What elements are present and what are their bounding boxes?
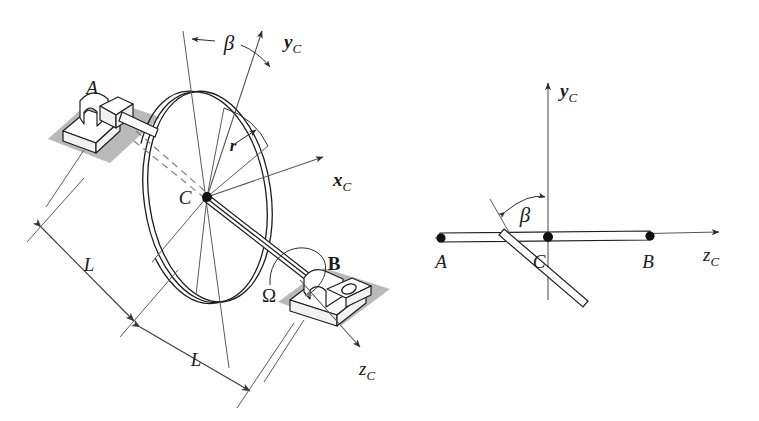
dim-L-lower-extension-b [237, 323, 294, 408]
label-bearing-b: B [328, 253, 341, 274]
bearing-b-leader-line [264, 320, 304, 382]
beta-pointer-left [192, 39, 215, 41]
right-projected-view: A C B β yC zC [433, 80, 719, 307]
dim-L-upper-extension-a [27, 178, 84, 242]
axis-label-x-sub: C [343, 179, 352, 194]
r-point-b-dot [645, 231, 654, 240]
axis-label-z: zC [358, 358, 375, 383]
left-perspective-view: A B C r β Ω L L xC yC zC [27, 31, 390, 408]
bearing-a-leader-line [46, 150, 84, 207]
axis-label-x-main: x [332, 169, 343, 190]
radial-line-to-rim-lower [196, 197, 207, 295]
axis-label-z-sub: C [366, 368, 375, 383]
radius-pointer [236, 130, 256, 143]
shaft-hidden-segment-upper [136, 131, 206, 192]
shaft-rod-centerline [205, 197, 312, 280]
r-point-c-dot [543, 232, 553, 242]
r-label-center-c: C [533, 251, 546, 272]
bearing-b [290, 270, 371, 326]
label-length-l-upper: L [83, 254, 95, 275]
shaft-hidden-segment-lower [134, 141, 206, 199]
label-center-c: C [179, 187, 192, 208]
dim-L-upper-extension-b [120, 270, 178, 337]
r-point-a-dot [436, 233, 445, 242]
figure-root: A B C r β Ω L L xC yC zC [0, 0, 759, 421]
label-omega: Ω [262, 285, 276, 306]
r-label-beta: β [519, 203, 531, 227]
axis-label-y-main: y [282, 31, 293, 52]
axis-label-y-sub: C [292, 41, 301, 56]
r-axis-label-z-sub: C [710, 254, 719, 269]
label-bearing-a: A [84, 77, 98, 98]
r-axis-label-y: yC [558, 80, 577, 105]
axis-yC-arrow [207, 31, 262, 197]
axis-label-y: yC [282, 31, 301, 56]
center-point-C [202, 192, 212, 202]
label-length-l-lower: L [190, 349, 202, 370]
r-label-point-b: B [642, 251, 654, 272]
r-axis-label-y-sub: C [568, 90, 577, 105]
axis-label-x: xC [332, 169, 352, 194]
label-beta-left: β [223, 31, 235, 55]
label-radius-r: r [230, 136, 237, 155]
disk-rim-highlight-lower [155, 250, 220, 311]
mechanics-diagram: A B C r β Ω L L xC yC zC [0, 0, 759, 421]
beta-pointer-right [241, 45, 270, 67]
radial-line-to-rim-right [207, 146, 268, 197]
r-axis-label-z: zC [702, 244, 719, 269]
r-label-point-a: A [433, 251, 447, 272]
r-axis-label-y-main: y [558, 80, 569, 101]
r-tilt-extension-line [490, 199, 510, 234]
